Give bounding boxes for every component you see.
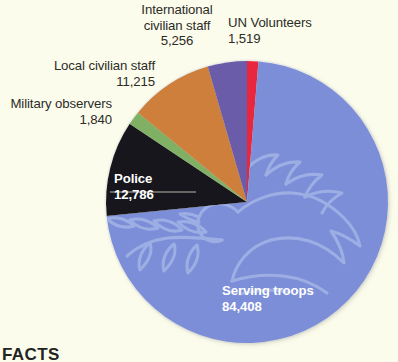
facts-heading: FACTS xyxy=(2,345,60,362)
label-police: Police 12,786 xyxy=(114,171,154,203)
label-police-line1: Police xyxy=(114,171,152,186)
label-serving-troops-value: 84,408 xyxy=(222,299,314,315)
label-un-volunteers: UN Volunteers 1,519 xyxy=(228,15,312,46)
label-military-observers-line1: Military observers xyxy=(10,96,112,111)
label-local-civilian-staff-value: 11,215 xyxy=(0,74,155,90)
label-local-civilian-staff: Local civilian staff 11,215 xyxy=(0,58,155,89)
infographic-pie-chart: International civilian staff 5,256 UN Vo… xyxy=(0,0,398,362)
label-local-civilian-staff-line1: Local civilian staff xyxy=(54,58,155,73)
label-international-civilian-staff-value: 5,256 xyxy=(118,33,236,49)
label-international-civilian-staff-line2: civilian staff xyxy=(118,18,236,34)
label-international-civilian-staff: International civilian staff 5,256 xyxy=(118,2,236,49)
label-un-volunteers-value: 1,519 xyxy=(228,31,312,47)
label-police-value: 12,786 xyxy=(114,187,154,203)
pie-chart-svg xyxy=(0,0,398,362)
label-military-observers-value: 1,840 xyxy=(0,112,112,128)
label-serving-troops-line1: Serving troops xyxy=(222,283,314,298)
label-military-observers: Military observers 1,840 xyxy=(0,96,112,127)
label-un-volunteers-line1: UN Volunteers xyxy=(228,15,312,30)
label-serving-troops: Serving troops 84,408 xyxy=(222,283,314,315)
label-international-civilian-staff-line1: International xyxy=(141,2,212,17)
